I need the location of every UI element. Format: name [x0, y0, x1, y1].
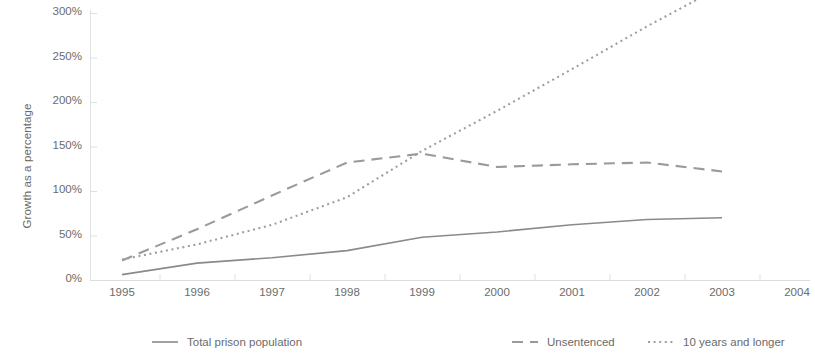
- x-tick-label: 1995: [92, 286, 152, 298]
- plot-canvas: [90, 0, 810, 281]
- data-series-group: [122, 0, 722, 275]
- legend-swatch-dashed-icon: [512, 336, 538, 348]
- plot-area: [90, 0, 810, 281]
- x-tick-label: 1998: [317, 286, 377, 298]
- y-tick-label: 200%: [22, 94, 82, 106]
- x-tick-label: 1999: [392, 286, 452, 298]
- legend-swatch-dotted-icon: [648, 336, 674, 348]
- x-axis-ticks: [160, 274, 760, 280]
- x-tick-label: 1996: [167, 286, 227, 298]
- y-axis-ticks: [90, 14, 97, 281]
- y-tick-label: 150%: [22, 139, 82, 151]
- y-tick-label: 50%: [22, 228, 82, 240]
- y-tick-label: 250%: [22, 50, 82, 62]
- x-tick-label: 2003: [692, 286, 752, 298]
- legend-label: Total prison population: [187, 336, 302, 348]
- y-tick-label: 300%: [22, 5, 82, 17]
- series-line: [122, 218, 722, 275]
- series-line: [122, 154, 722, 261]
- x-tick-label: 2000: [467, 286, 527, 298]
- legend-item[interactable]: Unsentenced: [512, 332, 615, 352]
- legend-label: 10 years and longer: [683, 336, 785, 348]
- x-tick-label: 2002: [617, 286, 677, 298]
- x-tick-label: 1997: [242, 286, 302, 298]
- x-axis-tick-labels: 1995199619971998199920002001200220032004: [0, 286, 810, 308]
- legend-label: Unsentenced: [547, 336, 615, 348]
- chart-legend: Total prison populationUnsentenced10 yea…: [0, 332, 810, 358]
- y-axis-tick-labels: 300%250%200%150%100%50%0%: [20, 0, 82, 281]
- x-tick-label: 2004: [767, 286, 815, 298]
- y-tick-label: 100%: [22, 183, 82, 195]
- legend-item[interactable]: 10 years and longer: [648, 332, 785, 352]
- y-tick-label: 0%: [22, 272, 82, 284]
- x-tick-label: 2001: [542, 286, 602, 298]
- legend-item[interactable]: Total prison population: [152, 332, 302, 352]
- legend-swatch-solid-icon: [152, 336, 178, 348]
- axis-lines: [90, 10, 810, 281]
